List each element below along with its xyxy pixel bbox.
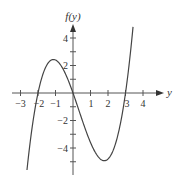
y-tick-label: −4 [57, 143, 68, 154]
x-tick-label: 4 [141, 98, 146, 109]
chart: −3 −2 −1 1 2 3 4 4 2 −2 −4 f(y) y [0, 0, 174, 181]
x-tick-label: −3 [15, 98, 26, 109]
y-tick-label: −2 [57, 115, 68, 126]
x-tick-label: −1 [50, 98, 61, 109]
x-tick-label: 2 [106, 98, 111, 109]
y-tick-label: 4 [63, 33, 68, 44]
x-axis-arrow-icon [156, 90, 164, 96]
x-axis-title: y [166, 86, 172, 98]
x-tick-label: 1 [89, 98, 94, 109]
y-axis-arrow-icon [70, 24, 76, 32]
y-axis-title: f(y) [65, 10, 81, 23]
x-tick-label: 3 [125, 98, 130, 109]
